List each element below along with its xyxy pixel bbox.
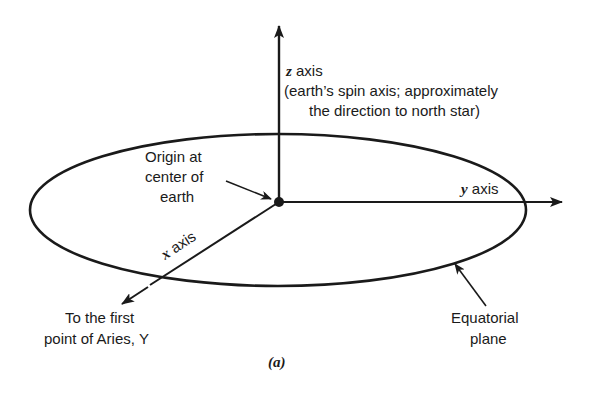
origin-label-line1: Origin at (145, 148, 203, 165)
z-axis-note-line1: (earth’s spin axis; approximately (284, 82, 498, 99)
z-axis-label: z axis (285, 62, 323, 79)
z-axis-note-line2: the direction to north star) (309, 102, 480, 119)
aries-label-line2: point of Aries, Υ (44, 330, 149, 347)
equatorial-plane-label-line2: plane (470, 330, 507, 347)
origin-label-line3: earth (160, 188, 194, 205)
origin-point (274, 197, 284, 207)
equatorial-plane-pointer-arrow (455, 264, 486, 306)
x-axis-extension (122, 287, 148, 304)
aries-label-line1: To the first (65, 309, 135, 326)
y-axis-label: y axis (459, 180, 499, 197)
origin-label-line2: center of (145, 168, 204, 185)
figure-caption: (a) (268, 354, 286, 371)
coordinate-system-diagram: z axis (earth’s spin axis; approximately… (0, 0, 594, 400)
origin-pointer-arrow (226, 181, 271, 199)
equatorial-plane-label-line1: Equatorial (451, 309, 519, 326)
